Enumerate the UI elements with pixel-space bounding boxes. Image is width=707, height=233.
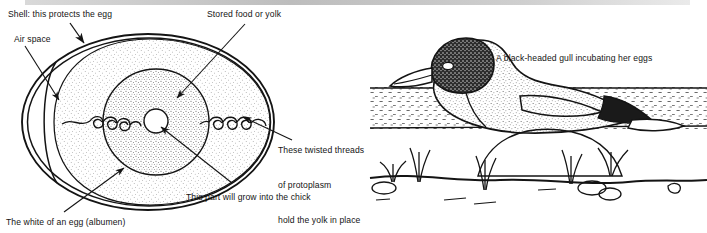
caption-black-headed-gull: A black-headed gull incubating her eggs (496, 53, 652, 64)
nest-mound (478, 129, 622, 176)
label-chalazae: These twisted threads of protoplasm hold… (278, 122, 364, 233)
leader-shell (70, 23, 84, 43)
label-germinal-disc: This part will grow into the chick (186, 192, 311, 203)
gull-illustration-svg (370, 0, 707, 233)
label-stored-food-or-yolk: Stored food or yolk (207, 9, 281, 20)
egg-panel: Shell: this protects the egg Air space S… (0, 0, 380, 233)
label-air-space: Air space (14, 34, 51, 45)
label-chalazae-line-3: hold the yolk in place (278, 215, 364, 227)
gull-head (431, 38, 494, 93)
label-albumen: The white of an egg (albumen) (6, 217, 125, 228)
ground-hatching (376, 189, 556, 204)
label-shell: Shell: this protects the egg (8, 9, 112, 20)
gull-eye (443, 62, 454, 69)
gull-panel: A black-headed gull incubating her eggs (370, 0, 707, 233)
label-chalazae-line-2: of protoplasm (278, 180, 364, 192)
figure-root: Shell: this protects the egg Air space S… (0, 0, 707, 233)
label-chalazae-line-1: These twisted threads (278, 145, 364, 157)
pebbles (372, 181, 680, 200)
